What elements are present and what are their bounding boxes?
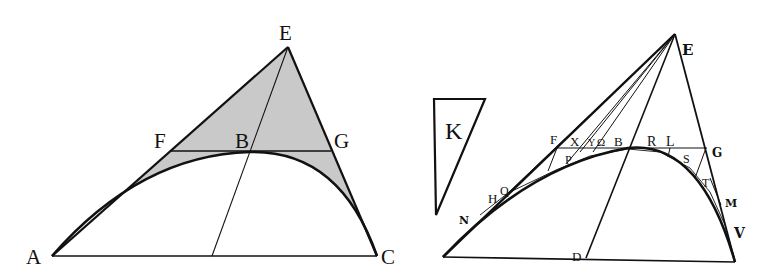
- ray-E-Y: [593, 34, 675, 152]
- diagram-canvas: A C E F B G E K F X Y Ω B R L G P S T H …: [0, 0, 775, 277]
- label-R: R: [647, 134, 657, 149]
- label-G: G: [712, 146, 722, 160]
- label-F: F: [154, 129, 166, 153]
- label-T: T: [702, 176, 710, 190]
- label-C: C: [381, 245, 395, 269]
- label-K: K: [445, 118, 463, 144]
- label-V: V: [733, 225, 746, 241]
- label-E: E: [279, 21, 292, 45]
- label-N: N: [459, 214, 469, 227]
- triangle-K: [434, 99, 485, 215]
- ray-E-X: [580, 34, 675, 152]
- label-A: A: [26, 245, 42, 269]
- label-S: S: [683, 152, 690, 166]
- base: [443, 257, 735, 262]
- label-Y: Y: [588, 137, 595, 148]
- label-L: L: [666, 134, 675, 149]
- curve: [443, 148, 735, 262]
- label-X: X: [570, 134, 580, 149]
- ray-E-H: [508, 34, 675, 193]
- label-omega: Ω: [597, 136, 605, 148]
- label-H: H: [488, 191, 497, 206]
- label-B: B: [614, 134, 623, 149]
- label-M: M: [725, 197, 737, 210]
- label-B: B: [235, 129, 249, 153]
- left-figure: [52, 47, 377, 256]
- label-Q: Q: [500, 184, 509, 198]
- label-P: P: [565, 153, 572, 167]
- label-F: F: [550, 132, 557, 147]
- label-G: G: [334, 129, 349, 153]
- label-E: E: [682, 41, 693, 59]
- right-figure: [434, 34, 735, 262]
- right-labels: E K F X Y Ω B R L G P S T H Q N M V D: [445, 41, 746, 264]
- label-D: D: [572, 249, 581, 264]
- seg-G-T: [695, 148, 706, 178]
